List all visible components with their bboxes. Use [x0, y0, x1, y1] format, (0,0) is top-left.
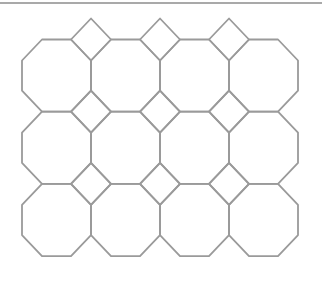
square	[209, 91, 249, 133]
square	[71, 163, 111, 205]
square	[209, 19, 249, 61]
octagon-square-tiling-diagram	[0, 0, 323, 292]
square	[71, 91, 111, 133]
square	[71, 19, 111, 61]
square	[140, 91, 180, 133]
square	[140, 163, 180, 205]
square	[209, 163, 249, 205]
square-group	[71, 19, 249, 205]
square	[140, 19, 180, 61]
octagon-group	[22, 40, 298, 257]
